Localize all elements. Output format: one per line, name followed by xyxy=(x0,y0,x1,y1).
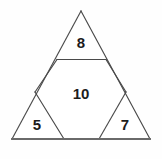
geometry-figure: 8 10 5 7 xyxy=(0,0,162,159)
label-center-hexagon: 10 xyxy=(73,85,90,102)
label-bottom-left-triangle: 5 xyxy=(33,116,41,133)
label-top-triangle: 8 xyxy=(77,34,85,51)
figure-canvas: 8 10 5 7 xyxy=(0,0,162,159)
label-bottom-right-triangle: 7 xyxy=(121,116,129,133)
